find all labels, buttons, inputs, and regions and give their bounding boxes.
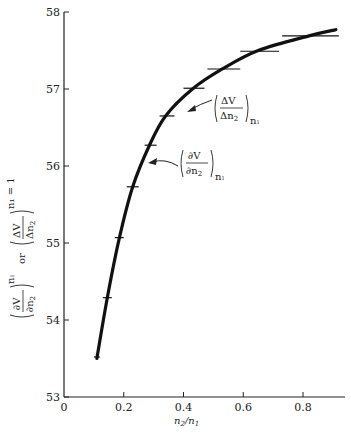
chart: 535455565758 00.20.40.60.8 ΔV Δn2 n1 ∂V … xyxy=(0,0,351,434)
y-axis-title: ∂V ∂n2 n1 or ΔV Δn2 n₁ = 1 xyxy=(5,177,37,317)
svg-text:ΔV: ΔV xyxy=(11,223,22,238)
annotation-delta-subscript: n1 xyxy=(250,115,260,126)
annotation-partial-denominator: ∂n2 xyxy=(186,165,202,178)
svg-text:or: or xyxy=(16,253,27,264)
svg-text:∂n2: ∂n2 xyxy=(24,296,37,312)
svg-text:n₁ = 1: n₁ = 1 xyxy=(5,177,16,209)
x-tick-label: 0 xyxy=(61,401,68,414)
annotation-delta-denominator: Δn2 xyxy=(220,110,238,123)
x-tick-label: 0.8 xyxy=(294,401,312,414)
x-axis-title: n2/n1 xyxy=(174,415,199,428)
x-ticks: 00.20.40.60.8 xyxy=(61,392,312,414)
y-tick-label: 56 xyxy=(46,160,60,173)
y-ticks: 535455565758 xyxy=(46,6,69,404)
y-tick-label: 58 xyxy=(46,6,60,19)
x-tick-label: 0.6 xyxy=(235,401,253,414)
annotation-partial-subscript: n1 xyxy=(215,171,225,182)
svg-text:n1: n1 xyxy=(5,274,16,284)
y-tick-label: 53 xyxy=(46,391,60,404)
derivative-curve xyxy=(97,30,336,359)
annotation-partial-numerator: ∂V xyxy=(188,150,201,161)
x-tick-label: 0.2 xyxy=(115,401,133,414)
annotation-delta: ΔV Δn2 n1 xyxy=(187,95,260,126)
svg-text:∂V: ∂V xyxy=(11,297,22,310)
y-tick-label: 55 xyxy=(46,237,60,250)
svg-text:Δn2: Δn2 xyxy=(24,221,37,239)
annotation-delta-numerator: ΔV xyxy=(221,95,236,106)
y-tick-label: 57 xyxy=(46,83,60,96)
y-tick-label: 54 xyxy=(46,314,60,327)
x-tick-label: 0.4 xyxy=(175,401,193,414)
annotation-partial: ∂V ∂n2 n1 xyxy=(148,150,225,182)
